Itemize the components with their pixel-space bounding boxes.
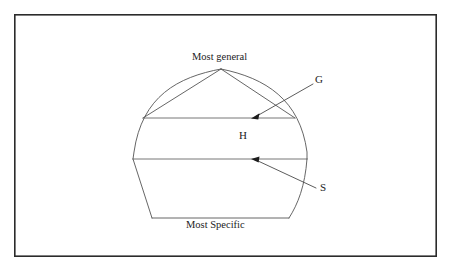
version-space-figure: Most general Most Specific H G S	[0, 0, 451, 274]
label-specific-boundary: S	[320, 182, 326, 193]
label-hypothesis-space: H	[239, 130, 247, 141]
s-arrow-head-icon	[251, 157, 260, 163]
apex-left-edge	[143, 69, 221, 118]
g-leader-line	[256, 84, 313, 117]
label-general-boundary: G	[315, 74, 323, 85]
label-most-general: Most general	[192, 52, 247, 63]
s-leader-line	[257, 161, 316, 189]
figure-canvas	[0, 0, 451, 274]
left-lower-edge	[133, 159, 152, 218]
left-upper-arc	[133, 69, 221, 159]
right-lower-edge	[289, 159, 307, 218]
right-upper-arc	[221, 69, 307, 159]
g-arrow-head-icon	[251, 113, 260, 119]
apex-right-edge	[221, 69, 295, 118]
label-most-specific: Most Specific	[186, 220, 245, 231]
